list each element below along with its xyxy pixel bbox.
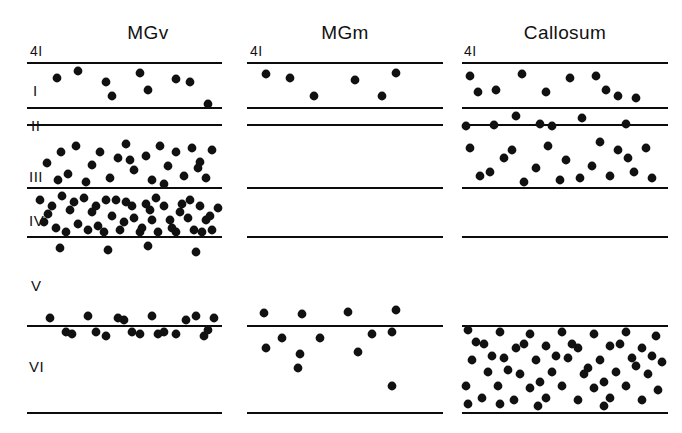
labeled-cell-dot (486, 168, 495, 177)
labeled-cell-dot (208, 146, 217, 155)
labeled-cell-dot (142, 152, 151, 161)
labeled-cell-dot (146, 206, 155, 215)
labeled-cell-dot (648, 352, 657, 361)
labeled-cell-dot (198, 228, 207, 237)
labeled-cell-dot (351, 76, 360, 85)
labeled-cell-dot (622, 120, 631, 129)
labeled-cell-dot (148, 176, 157, 185)
labeled-cell-dot (164, 162, 173, 171)
labeled-cell-dot (552, 352, 561, 361)
labeled-cell-dot (534, 402, 543, 411)
labeled-cell-dot (43, 159, 52, 168)
labeled-cell-dot (542, 342, 551, 351)
labeled-cell-dot (92, 202, 101, 211)
labeled-cell-dot (590, 330, 599, 339)
labeled-cell-dot (596, 356, 605, 365)
labeled-cell-dot (584, 364, 593, 373)
labeled-cell-dot (488, 352, 497, 361)
labeled-cell-dot (464, 400, 473, 409)
labeled-cell-dot (84, 226, 93, 235)
labeled-cell-dot (106, 174, 115, 183)
labeled-cell-dot (152, 194, 161, 203)
labeled-cell-dot (466, 72, 475, 81)
labeled-cell-dot (536, 378, 545, 387)
labeled-cell-dot (536, 120, 545, 129)
labeled-cell-dot (144, 242, 153, 251)
labeled-cell-dot (196, 202, 205, 211)
labeled-cell-dot (46, 314, 55, 323)
labeled-cell-dot (606, 172, 615, 181)
labeled-cell-dot (632, 94, 641, 103)
labeled-cell-dot (57, 148, 66, 157)
labeled-cell-dot (68, 330, 77, 339)
labeled-cell-dot (72, 142, 81, 151)
labeled-cell-dot (630, 168, 639, 177)
labeled-cell-dot (518, 70, 527, 79)
labeled-cell-dot (544, 142, 553, 151)
labeled-cell-dot (654, 386, 663, 395)
labeled-cell-dot (496, 328, 505, 337)
labeled-cell-dot (576, 174, 585, 183)
labeled-cell-dot (484, 368, 493, 377)
labeled-cell-dot (172, 148, 181, 157)
labeled-cell-dot (144, 86, 153, 95)
labeled-cell-dot (176, 208, 185, 217)
labeled-cell-dot (648, 174, 657, 183)
layer-label-ii: II (31, 117, 40, 134)
layer-label-iv: IV (29, 212, 44, 229)
labeled-cell-dot (80, 194, 89, 203)
labeled-cell-dot (156, 142, 165, 151)
labeled-cell-dot (562, 156, 571, 165)
labeled-cell-dot (102, 332, 111, 341)
labeled-cell-dot (192, 312, 201, 321)
labeled-cell-dot (160, 180, 169, 189)
labeled-cell-dot (568, 340, 577, 349)
labeled-cell-dot (180, 172, 189, 181)
labeled-cell-dot (112, 196, 121, 205)
labeled-cell-dot (462, 382, 471, 391)
labeled-cell-dot (128, 328, 137, 337)
labeled-cell-dot (492, 86, 501, 95)
labeled-cell-dot (64, 170, 73, 179)
labeled-cell-dot (102, 196, 111, 205)
labeled-cell-dot (148, 216, 157, 225)
labeled-cell-dot (642, 144, 651, 153)
cell-group-mgm (260, 69, 401, 391)
labeled-cell-dot (616, 340, 625, 349)
labeled-cell-dot (154, 228, 163, 237)
labeled-cell-dot (392, 306, 401, 315)
labeled-cell-dot (600, 402, 609, 411)
labeled-cell-dot (468, 356, 477, 365)
labeled-cell-dot (532, 356, 541, 365)
labeled-cell-dot (62, 228, 71, 237)
laminar-distribution-figure: MGvMGmCallosum 4I4I4I IIIIIIIVVVI (0, 0, 682, 433)
labeled-cell-dot (294, 364, 303, 373)
labeled-cell-dot (172, 330, 181, 339)
labeled-cell-dot (178, 200, 187, 209)
labeled-cell-dot (70, 198, 79, 207)
labeled-cell-dot (298, 310, 307, 319)
labeled-cell-dot (66, 206, 75, 215)
labeled-cell-dot (48, 202, 57, 211)
labeled-cell-dot (194, 164, 203, 173)
labeled-cell-dot (36, 196, 45, 205)
labeled-cell-dot (558, 382, 567, 391)
labeled-cell-dot (208, 226, 217, 235)
column-title-callosum: Callosum (524, 22, 606, 44)
labeled-cell-dot (500, 354, 509, 363)
labeled-cell-dot (122, 140, 131, 149)
labeled-cell-dot (494, 382, 503, 391)
labeled-cell-dot (516, 370, 525, 379)
labeled-cell-dot (130, 166, 139, 175)
labeled-cell-dot (614, 92, 623, 101)
labeled-cell-dot (190, 226, 199, 235)
labeled-cell-dot (602, 86, 611, 95)
labeled-cell-dot (526, 330, 535, 339)
labeled-cell-dot (462, 122, 471, 131)
labeled-cell-dot (166, 216, 175, 225)
labeled-cell-dot (296, 350, 305, 359)
labeled-cell-dot (56, 244, 65, 253)
labeled-cell-dot (344, 308, 353, 317)
labeled-cell-dot (644, 370, 653, 379)
labeled-cell-dot (102, 78, 111, 87)
